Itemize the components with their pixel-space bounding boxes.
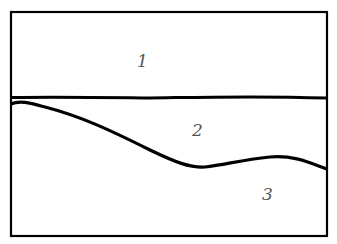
region-label-1: 1 [137,51,148,71]
boundary-curve-lower [11,102,327,169]
region-label-3: 3 [262,184,273,204]
layer-diagram: 1 2 3 [0,0,337,244]
diagram-frame [11,12,327,236]
boundary-line-upper [11,97,327,98]
region-label-2: 2 [191,120,203,140]
